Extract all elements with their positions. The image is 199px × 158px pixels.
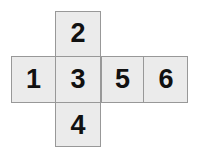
face-label-6: 6 [158,66,173,93]
diagram-canvas: 1 2 3 4 5 6 [0,0,199,158]
cube-face-right: 5 [101,56,144,103]
cube-face-far-right: 6 [144,56,188,103]
cube-face-left: 1 [11,56,56,103]
face-label-4: 4 [70,112,85,139]
face-label-3: 3 [70,66,85,93]
cube-face-top: 2 [55,11,101,56]
cube-face-center: 3 [55,56,101,103]
face-label-2: 2 [70,20,85,47]
face-label-5: 5 [115,66,130,93]
face-label-1: 1 [26,66,41,93]
cube-face-bottom: 4 [55,103,101,147]
cube-net: 1 2 3 4 5 6 [0,0,199,158]
